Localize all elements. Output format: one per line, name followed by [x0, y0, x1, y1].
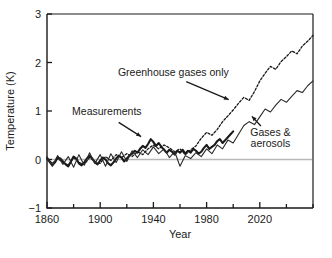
x-tick-label: 1900	[88, 213, 112, 225]
annotation-label: aerosols	[251, 137, 291, 149]
y-tick-label: 3	[35, 8, 41, 20]
x-tick-label: 1940	[141, 213, 165, 225]
x-tick-label: 1980	[194, 213, 218, 225]
temperature-projection-chart: −10123 18601900194019802020 Greenhouse g…	[0, 0, 332, 258]
x-axis-title: Year	[169, 228, 192, 240]
x-tick-label: 1860	[35, 213, 59, 225]
annotation-label: Measurements	[72, 105, 141, 117]
y-axis-title: Temperature (K)	[4, 71, 16, 150]
y-tick-label: 0	[35, 154, 41, 166]
y-tick-label: 2	[35, 57, 41, 69]
y-tick-label: 1	[35, 105, 41, 117]
chart-figure: −10123 18601900194019802020 Greenhouse g…	[0, 0, 332, 258]
annotation-label: Greenhouse gases only	[118, 66, 230, 78]
x-tick-label: 2020	[248, 213, 272, 225]
